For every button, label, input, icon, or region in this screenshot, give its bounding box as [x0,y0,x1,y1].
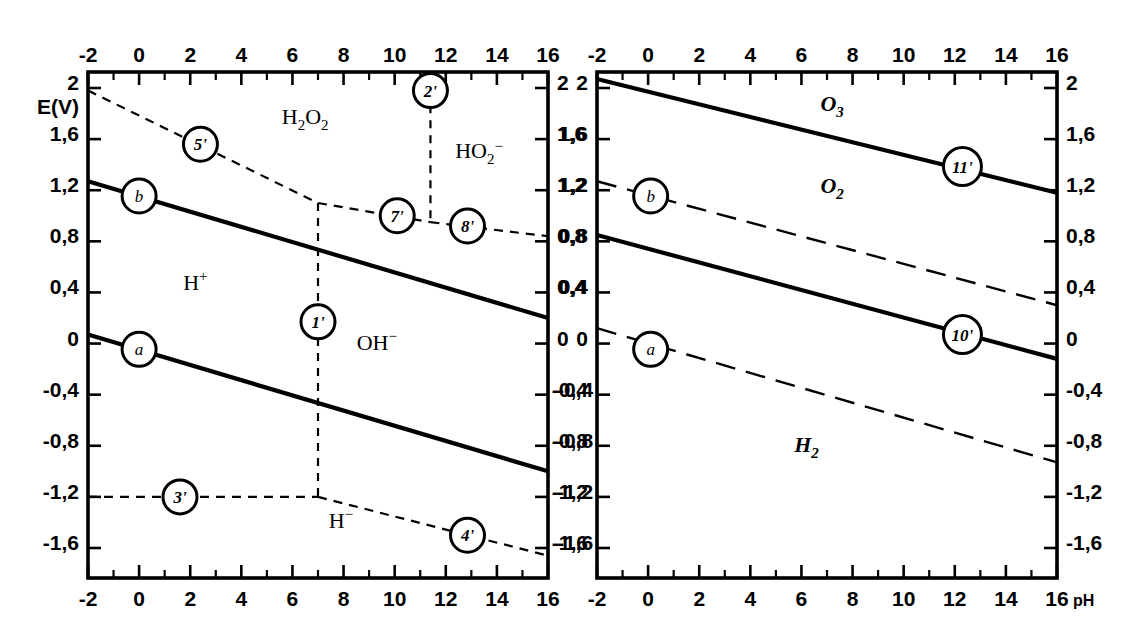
y-tick-label-left: -1,2 [43,480,79,503]
x-tick-label-top: 8 [847,43,859,66]
x-tick-label-bottom: 6 [287,587,299,610]
x-tick-label-bottom: 10 [383,587,406,610]
y-tick-label-left: 0 [67,327,79,350]
x-tick-label-top: 6 [796,43,808,66]
x-tick-label-bottom: 12 [943,587,966,610]
pourbaix-figure: -2-200224466881010121214141616221,61,61,… [0,0,1131,641]
x-tick-label-top: 14 [485,43,509,66]
x-tick-label-top: 2 [693,43,705,66]
marker-label-10prime: 10' [952,326,974,345]
x-tick-label-bottom: 14 [994,587,1018,610]
x-tick-label-bottom: 12 [434,587,457,610]
marker-label-11prime: 11' [952,158,973,177]
x-tick-label-bottom: 4 [744,587,756,610]
x-tick-label-bottom: 14 [485,587,509,610]
y-tick-label-left: -1,6 [43,531,79,554]
y-tick-label-right: 0,4 [1066,275,1096,298]
x-tick-label-bottom: 8 [847,587,859,610]
y-tick-label-left: 0 [576,327,588,350]
x-tick-label-top: 12 [943,43,966,66]
y-tick-label-right: 1,2 [1066,173,1095,196]
x-tick-label-top: 16 [536,43,559,66]
y-tick-label-left: -0,8 [552,429,589,452]
x-tick-label-bottom: -2 [79,587,98,610]
x-tick-label-top: 10 [892,43,915,66]
x-tick-label-top: 12 [434,43,457,66]
y-tick-label-right: -0,8 [1066,429,1103,452]
marker-label-b: b [646,187,655,206]
marker-label-1prime: 1' [311,313,325,332]
x-tick-label-bottom: 4 [235,587,247,610]
x-tick-label-top: 4 [744,43,756,66]
x-tick-label-top: 10 [383,43,406,66]
y-tick-label-left: -1,2 [552,480,588,503]
y-tick-label-left: 0,8 [559,224,589,247]
x-axis-name: pH [1073,592,1094,609]
x-tick-label-bottom: 10 [892,587,915,610]
y-tick-label-left: 1,6 [559,122,588,145]
y-tick-label-left: 1,6 [50,122,79,145]
y-tick-label-left: 0,8 [50,224,80,247]
marker-label-a: a [646,340,655,359]
y-tick-label-left: 1,2 [559,173,588,196]
marker-label-5prime: 5' [194,135,208,154]
y-tick-label-right: 2 [1066,71,1078,94]
y-tick-label-left: 2 [67,71,79,94]
y-tick-label-right: 0 [557,327,569,350]
marker-label-7prime: 7' [391,207,405,226]
y-tick-label-right: -1,6 [1066,531,1102,554]
x-tick-label-top: -2 [588,43,607,66]
x-tick-label-bottom: 2 [184,587,196,610]
x-tick-label-top: 0 [642,43,654,66]
y-tick-label-right: 1,6 [1066,122,1095,145]
x-tick-label-bottom: 8 [338,587,350,610]
y-tick-label-left: -1,6 [552,531,588,554]
plot-svg: -2-200224466881010121214141616221,61,61,… [0,0,1131,641]
x-tick-label-bottom: -2 [588,587,607,610]
y-tick-label-left: 1,2 [50,173,79,196]
x-tick-label-top: -2 [79,43,98,66]
marker-label-3prime: 3' [172,488,187,507]
y-axis-name: E(V) [37,95,79,118]
x-tick-label-bottom: 16 [536,587,559,610]
x-tick-label-top: 14 [994,43,1018,66]
y-tick-label-right: 0,8 [1066,224,1096,247]
y-tick-label-left: 2 [576,71,588,94]
y-tick-label-left: 0,4 [559,275,589,298]
y-tick-label-left: 0,4 [50,275,80,298]
x-tick-label-bottom: 0 [133,587,145,610]
x-tick-label-top: 4 [235,43,247,66]
x-tick-label-bottom: 0 [642,587,654,610]
x-tick-label-bottom: 6 [796,587,808,610]
y-tick-label-right: -0,4 [1066,378,1103,401]
x-tick-label-top: 16 [1045,43,1068,66]
x-tick-label-top: 8 [338,43,350,66]
x-tick-label-bottom: 16 [1045,587,1068,610]
y-tick-label-left: -0,4 [43,378,80,401]
marker-label-2prime: 2' [423,82,438,101]
marker-label-8prime: 8' [461,217,475,236]
marker-label-a: a [135,340,144,359]
x-tick-label-top: 6 [287,43,299,66]
x-tick-label-bottom: 2 [693,587,705,610]
marker-label-4prime: 4' [460,526,475,545]
y-tick-label-right: 2 [557,71,569,94]
y-tick-label-left: -0,4 [552,378,589,401]
y-tick-label-left: -0,8 [43,429,80,452]
y-tick-label-right: -1,2 [1066,480,1102,503]
marker-label-b: b [135,187,144,206]
x-tick-label-top: 0 [133,43,145,66]
y-tick-label-right: 0 [1066,327,1078,350]
x-tick-label-top: 2 [184,43,196,66]
